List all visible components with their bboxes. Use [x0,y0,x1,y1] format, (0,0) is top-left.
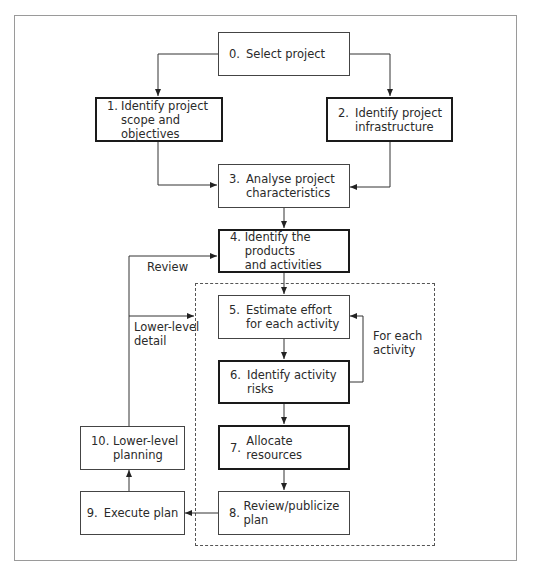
node-4-identify-products-activities: 4. Identify the products and activities [218,229,350,273]
node-label-line1: Lower-level [113,434,178,448]
node-label-line1: Estimate effort [246,303,332,317]
node-number: 5. [229,303,246,331]
node-label-line2: for each activity [246,317,339,331]
node-label-line1: Analyse project [246,172,335,186]
node-label-line2: scope and objectives [121,113,180,141]
edge-label-line2: activity [373,343,415,357]
edge-label-line2: detail [134,334,166,348]
node-label-line1: Identify project [121,99,208,113]
edge-label-lower-level-detail: Lower-level detail [134,320,199,348]
node-number: 8. [229,506,243,520]
node-2-identify-infrastructure: 2. Identify project infrastructure [326,97,453,142]
node-5-estimate-effort: 5. Estimate effort for each activity [218,295,350,339]
edge-label-for-each-activity: For each activity [373,329,422,357]
node-label-line2: infrastructure [355,120,434,134]
node-label: Review/publicize plan [243,499,349,527]
node-label-line2: risks [247,382,274,396]
node-label: Allocate resources [246,434,348,462]
node-label-line1: Identify project [355,106,442,120]
node-7-allocate-resources: 7. Allocate resources [218,425,350,470]
node-6-identify-risks: 6. Identify activity risks [218,360,350,404]
node-label: Execute plan [104,506,178,520]
node-number: 3. [229,172,246,200]
node-number: 0. [229,47,246,61]
node-8-review-publicize: 8. Review/publicize plan [218,491,350,535]
node-label: Select project [246,47,325,61]
node-number: 4. [230,230,245,272]
node-3-analyse-characteristics: 3. Analyse project characteristics [218,164,350,208]
node-number: 1. [107,99,121,141]
node-label-line2: and activities [245,258,322,272]
node-number: 7. [230,441,246,455]
node-label-line1: Identify activity [247,368,336,382]
node-1-identify-scope: 1. Identify project scope and objectives [95,97,223,142]
node-number: 2. [338,106,355,134]
edge-label-review: Review [147,260,188,274]
node-0-select-project: 0. Select project [218,32,350,76]
node-9-execute-plan: 9. Execute plan [80,491,185,535]
edge-label-line1: Lower-level [134,320,199,334]
node-number: 6. [230,368,247,396]
node-number: 9. [87,506,104,520]
node-10-lower-level-planning: 10. Lower-level planning [80,426,185,470]
node-label-line2: planning [113,448,163,462]
node-number: 10. [91,434,113,462]
edge-label-line1: For each [373,329,422,343]
node-label-line2: characteristics [246,186,330,200]
node-label-line1: Identify the products [245,230,311,258]
